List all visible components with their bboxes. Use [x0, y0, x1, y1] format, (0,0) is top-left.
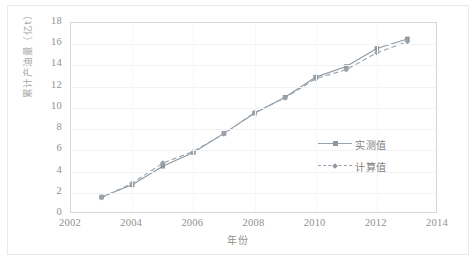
- horizontal-gridline: [71, 65, 436, 66]
- legend-line-sample-solid-icon: [318, 138, 352, 150]
- x-axis-tick-label: 2010: [293, 217, 337, 228]
- horizontal-gridline: [71, 87, 436, 88]
- y-axis-tick-label: 0: [34, 206, 62, 217]
- chart-container: 181614121086420 累计产油量（亿t） 20022004200620…: [0, 0, 476, 263]
- x-axis-tick-label: 2006: [170, 217, 214, 228]
- y-axis-tick-label: 14: [34, 57, 62, 68]
- legend-label-calculated: 计算值: [355, 159, 387, 174]
- y-axis-tick-label: 4: [34, 164, 62, 175]
- x-axis-tick-label: 2002: [48, 217, 92, 228]
- y-axis-title: 累计产油量（亿t）: [20, 0, 34, 98]
- legend-item-calculated[interactable]: 计算值: [318, 155, 414, 177]
- y-axis-title-wrapper: 累计产油量（亿t）: [22, 40, 36, 180]
- legend-label-measured: 实测值: [355, 137, 387, 152]
- y-axis-tick-label: 18: [34, 15, 62, 26]
- y-axis-tick-label: 2: [34, 185, 62, 196]
- y-axis-tick-label: 10: [34, 100, 62, 111]
- vertical-gridline: [316, 23, 317, 212]
- chart-legend: 实测值 计算值: [318, 133, 414, 181]
- horizontal-gridline: [71, 108, 436, 109]
- legend-line-sample-dashed-icon: [318, 160, 352, 172]
- horizontal-gridline: [71, 193, 436, 194]
- y-axis-tick-label: 8: [34, 121, 62, 132]
- y-axis-tick-label: 12: [34, 79, 62, 90]
- y-axis-tick-label: 6: [34, 142, 62, 153]
- y-axis-tick-label: 16: [34, 36, 62, 47]
- legend-item-measured[interactable]: 实测值: [318, 133, 414, 155]
- x-axis-title: 年份: [0, 232, 476, 247]
- x-axis-tick-label: 2014: [415, 217, 459, 228]
- plot-area: [70, 22, 437, 213]
- horizontal-gridline: [71, 129, 436, 130]
- vertical-gridline: [132, 23, 133, 212]
- x-axis-tick-label: 2012: [354, 217, 398, 228]
- vertical-gridline: [255, 23, 256, 212]
- x-axis-tick-label: 2008: [232, 217, 276, 228]
- x-axis-tick-label: 2004: [109, 217, 153, 228]
- horizontal-gridline: [71, 44, 436, 45]
- vertical-gridline: [193, 23, 194, 212]
- vertical-gridline: [377, 23, 378, 212]
